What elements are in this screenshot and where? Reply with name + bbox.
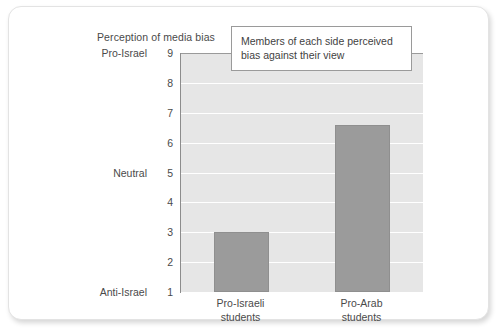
- x-axis-labels: Pro-IsraelistudentsPro-Arabstudents: [180, 297, 423, 331]
- y-axis-tick-label: 6: [159, 137, 173, 149]
- bar: [214, 232, 269, 292]
- y-axis-tick-label: 2: [159, 256, 173, 268]
- y-axis-tick-label: 1: [159, 286, 173, 298]
- x-axis-label-line: Pro-Israeli: [217, 297, 265, 311]
- y-axis-category-label: Anti-Israel: [100, 286, 147, 298]
- plot-area: [180, 53, 423, 293]
- y-axis-tick-labels: 123456789: [149, 53, 173, 292]
- x-axis-label: Pro-Arabstudents: [340, 297, 382, 324]
- y-axis-tick-label: 7: [159, 107, 173, 119]
- y-axis-category-labels: Pro-IsraelNeutralAnti-Israel: [29, 53, 147, 292]
- chart-card: Perception of media bias Pro-IsraelNeutr…: [8, 6, 489, 320]
- x-axis-label: Pro-Israelistudents: [217, 297, 265, 324]
- bar: [335, 125, 390, 292]
- x-axis-label-line: students: [217, 311, 265, 325]
- y-axis-tick-label: 9: [159, 47, 173, 59]
- y-axis-tick-label: 8: [159, 77, 173, 89]
- gridline: [181, 292, 423, 293]
- bar-series: [181, 53, 423, 292]
- y-axis-tick-label: 4: [159, 196, 173, 208]
- y-axis-category-label: Pro-Israel: [101, 47, 147, 59]
- annotation-callout: Members of each side perceived bias agai…: [231, 26, 412, 71]
- chart-title: Perception of media bias: [97, 31, 215, 43]
- y-axis-tick-label: 5: [159, 167, 173, 179]
- y-axis-category-label: Neutral: [113, 167, 147, 179]
- y-axis-tick-label: 3: [159, 226, 173, 238]
- x-axis-label-line: students: [340, 311, 382, 325]
- x-axis-label-line: Pro-Arab: [340, 297, 382, 311]
